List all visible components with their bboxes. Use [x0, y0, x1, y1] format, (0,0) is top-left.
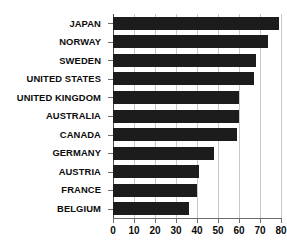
bar-row [113, 162, 281, 181]
category-label: AUSTRIA [0, 162, 104, 181]
category-tick [105, 125, 113, 144]
category-label: AUSTRALIA [0, 107, 104, 126]
x-axis-tick-marks [113, 218, 282, 223]
bar [113, 54, 256, 67]
category-tick [105, 70, 113, 89]
x-axis-tick-label: 70 [254, 224, 265, 237]
bar-row [113, 14, 281, 33]
bar [113, 91, 239, 104]
bar [113, 72, 254, 85]
category-label: GERMANY [0, 144, 104, 163]
bar-row [113, 181, 281, 200]
bar-row [113, 107, 281, 126]
gridline [281, 14, 282, 218]
category-tick [105, 51, 113, 70]
bar [113, 17, 279, 30]
category-tick [105, 181, 113, 200]
x-axis-tick [113, 218, 114, 223]
category-label: SWEDEN [0, 51, 104, 70]
x-axis-tick [134, 218, 135, 223]
x-axis-tick [155, 218, 156, 223]
bar [113, 110, 239, 123]
bar-row [113, 125, 281, 144]
x-axis-tick-label: 30 [170, 224, 181, 237]
bar [113, 165, 199, 178]
x-axis-tick [239, 218, 240, 223]
category-axis-labels: JAPANNORWAYSWEDENUNITED STATESUNITED KIN… [0, 14, 104, 218]
plot-area [113, 14, 281, 218]
x-axis-tick [281, 218, 282, 223]
x-axis-tick [218, 218, 219, 223]
bar [113, 128, 237, 141]
x-axis-tick [197, 218, 198, 223]
bar-row [113, 144, 281, 163]
x-axis-tick-labels: 01020304050607080 [113, 224, 282, 238]
category-tick [105, 88, 113, 107]
bar-row [113, 51, 281, 70]
x-axis-tick-label: 80 [275, 224, 286, 237]
category-label: NORWAY [0, 33, 104, 52]
x-axis-tick-label: 20 [149, 224, 160, 237]
bar-chart: JAPANNORWAYSWEDENUNITED STATESUNITED KIN… [0, 0, 287, 252]
category-axis-ticks [105, 14, 113, 218]
category-label: UNITED KINGDOM [0, 88, 104, 107]
category-tick [105, 199, 113, 218]
category-tick [105, 162, 113, 181]
bar [113, 35, 268, 48]
bar-row [113, 88, 281, 107]
category-tick [105, 107, 113, 126]
x-axis-tick [176, 218, 177, 223]
category-tick [105, 33, 113, 52]
category-label: BELGIUM [0, 199, 104, 218]
bar [113, 147, 214, 160]
bar-row [113, 199, 281, 218]
category-tick [105, 144, 113, 163]
x-axis-tick-label: 50 [212, 224, 223, 237]
x-axis-tick [260, 218, 261, 223]
category-tick [105, 14, 113, 33]
bar-row [113, 33, 281, 52]
category-label: CANADA [0, 125, 104, 144]
bars-group [113, 14, 281, 218]
x-axis-tick-label: 0 [110, 224, 116, 237]
category-label: UNITED STATES [0, 70, 104, 89]
x-axis-tick-label: 10 [128, 224, 139, 237]
category-label: FRANCE [0, 181, 104, 200]
bar [113, 184, 197, 197]
x-axis-tick-label: 60 [233, 224, 244, 237]
x-axis-tick-label: 40 [191, 224, 202, 237]
bar [113, 202, 189, 215]
category-label: JAPAN [0, 14, 104, 33]
bar-row [113, 70, 281, 89]
